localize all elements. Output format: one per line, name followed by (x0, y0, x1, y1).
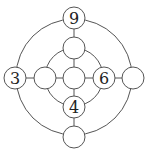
node-circle (63, 37, 85, 59)
node-lower: 4 (63, 96, 85, 118)
node-far-right (122, 67, 144, 89)
number-ring-diagram: 9634 (0, 0, 147, 156)
node-label: 3 (10, 69, 20, 88)
node-circle (63, 67, 85, 89)
node-right-inner: 6 (93, 67, 115, 89)
node-circle (63, 126, 85, 148)
node-center (63, 67, 85, 89)
node-upper (63, 37, 85, 59)
node-far-left: 3 (4, 67, 26, 89)
node-label: 4 (69, 98, 79, 117)
node-circle (122, 67, 144, 89)
node-label: 9 (69, 9, 79, 28)
node-label: 6 (99, 69, 109, 88)
node-left-inner (34, 67, 56, 89)
node-circle (34, 67, 56, 89)
node-top: 9 (63, 7, 85, 29)
node-bottom (63, 126, 85, 148)
